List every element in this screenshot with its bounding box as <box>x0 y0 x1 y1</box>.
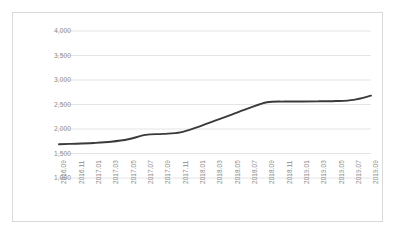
x-axis-tick-label: 2017.03 <box>113 160 119 184</box>
x-axis-tick-label: 2018.09 <box>269 160 275 184</box>
x-axis-tick-label: 2019.05 <box>339 160 345 184</box>
x-axis-tick-label: 2019.09 <box>373 160 379 184</box>
chart-container: 1,0001,5002,0002,5003,0003,5004,000 2016… <box>12 12 383 222</box>
x-axis-tick-label: 2018.11 <box>287 161 293 184</box>
x-axis-tick-labels: 2016.092016.112017.012017.032017.052017.… <box>13 13 382 221</box>
x-axis-tick-label: 2019.03 <box>321 160 327 184</box>
x-axis-tick-label: 2017.05 <box>131 160 137 184</box>
x-axis-tick-label: 2018.05 <box>235 160 241 184</box>
x-axis-tick-label: 2017.11 <box>183 161 189 184</box>
x-axis-tick-label: 2018.03 <box>217 160 223 184</box>
x-axis-tick-label: 2016.11 <box>79 161 85 184</box>
x-axis-tick-label: 2019.01 <box>304 160 310 184</box>
x-axis-tick-label: 2018.07 <box>252 160 258 184</box>
x-axis-tick-label: 2018.01 <box>200 160 206 184</box>
x-axis-tick-label: 2016.09 <box>61 160 67 184</box>
x-axis-tick-label: 2017.01 <box>96 160 102 184</box>
x-axis-tick-label: 2017.07 <box>148 160 154 184</box>
x-axis-tick-label: 2019.07 <box>356 160 362 184</box>
plot-area: 1,0001,5002,0002,5003,0003,5004,000 2016… <box>13 13 382 221</box>
x-axis-tick-label: 2017.09 <box>165 160 171 184</box>
